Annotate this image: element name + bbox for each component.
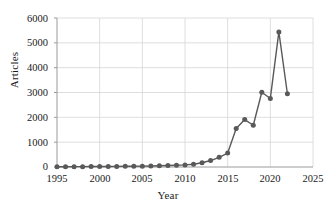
articles-per-year-line-chart: Articles Year 6000 5000 4000 3000 2000 1…: [0, 0, 336, 213]
data-point: [157, 163, 162, 168]
data-point: [191, 162, 196, 167]
data-point: [140, 164, 145, 169]
data-point: [200, 160, 205, 165]
data-point: [80, 164, 85, 169]
data-point: [276, 29, 281, 34]
data-point: [89, 164, 94, 169]
data-point: [123, 164, 128, 169]
series-markers: [55, 29, 290, 169]
data-point: [234, 126, 239, 131]
series-line: [57, 32, 287, 167]
data-point: [106, 164, 111, 169]
data-point: [174, 163, 179, 168]
data-point: [131, 164, 136, 169]
data-point: [217, 155, 222, 160]
data-point: [183, 162, 188, 167]
data-point: [285, 91, 290, 96]
data-point: [242, 117, 247, 122]
data-point: [72, 164, 77, 169]
data-point: [63, 164, 68, 169]
data-point: [268, 96, 273, 101]
data-point: [114, 164, 119, 169]
data-point: [225, 151, 230, 156]
data-point: [97, 164, 102, 169]
plot-area: [0, 0, 336, 213]
data-point: [208, 158, 213, 163]
data-point: [165, 163, 170, 168]
data-point: [55, 164, 60, 169]
data-point: [251, 123, 256, 128]
data-point: [148, 164, 153, 169]
data-point: [259, 90, 264, 95]
